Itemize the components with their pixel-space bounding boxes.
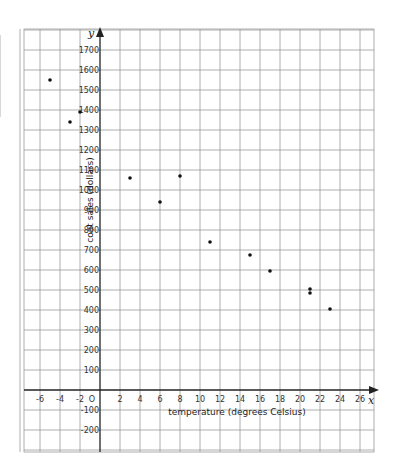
y-tick-label: 1200 [79, 146, 99, 155]
x-tick-label: 22 [315, 395, 325, 404]
data-point [68, 120, 72, 124]
data-point [78, 110, 82, 114]
y-tick-label: 300 [84, 326, 99, 335]
y-tick-label: 1400 [79, 106, 99, 115]
data-point [328, 307, 332, 311]
y-tick-label: 1600 [79, 66, 99, 75]
origin-label: O [89, 395, 95, 404]
x-tick-label: -4 [56, 395, 64, 404]
x-tick-label: 6 [157, 395, 162, 404]
data-point [308, 287, 312, 291]
x-tick-label: 26 [355, 395, 365, 404]
data-point [178, 174, 182, 178]
scatter-chart: -6-4-22468101214161820222426O-200-100100… [0, 0, 397, 475]
x-axis-title: temperature (degrees Celsius) [168, 407, 305, 417]
y-tick-label: 1700 [79, 46, 99, 55]
x-tick-label: 24 [335, 395, 345, 404]
x-tick-label: 2 [117, 395, 122, 404]
data-point [48, 78, 52, 82]
x-tick-label: 4 [137, 395, 142, 404]
data-point [128, 176, 132, 180]
x-tick-label: -2 [76, 395, 84, 404]
y-tick-label: -100 [81, 406, 99, 415]
y-tick-label: 500 [84, 286, 99, 295]
x-tick-label: 20 [295, 395, 305, 404]
axes [24, 27, 379, 452]
data-point [208, 240, 212, 244]
data-point [268, 269, 272, 273]
x-tick-label: 16 [255, 395, 265, 404]
x-tick-label: 14 [235, 395, 245, 404]
y-tick-label: 1300 [79, 126, 99, 135]
x-tick-label: -6 [36, 395, 44, 404]
grid [20, 29, 374, 452]
y-axis-title: coat sales (dollars) [85, 157, 95, 242]
y-tick-label: 400 [84, 306, 99, 315]
x-tick-label: 12 [215, 395, 225, 404]
data-point [248, 253, 252, 257]
x-tick-label: 10 [195, 395, 205, 404]
y-tick-label: -200 [81, 426, 99, 435]
y-tick-label: 1500 [79, 86, 99, 95]
y-axis-arrow-icon [96, 27, 104, 37]
data-point [158, 200, 162, 204]
x-tick-label: 8 [177, 395, 182, 404]
x-variable-label: x [368, 394, 375, 407]
y-tick-label: 700 [84, 246, 99, 255]
y-tick-label: 100 [84, 366, 99, 375]
grid-border [24, 29, 374, 452]
x-tick-label: 18 [275, 395, 285, 404]
y-tick-label: 600 [84, 266, 99, 275]
data-point [308, 291, 312, 295]
y-tick-label: 200 [84, 346, 99, 355]
y-variable-label: y [87, 27, 95, 40]
